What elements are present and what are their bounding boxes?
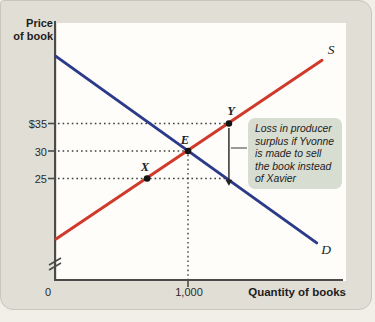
figure: Price of book $35 30 25 0 1,000 Quantity… [0, 0, 375, 322]
plot-lines [0, 0, 375, 322]
